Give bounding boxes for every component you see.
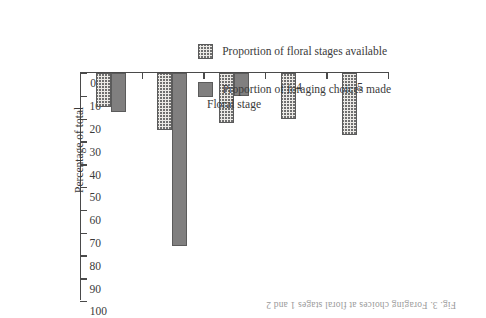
chart-legend: Proportion of foraging choices madePropo… (198, 26, 468, 100)
bar (157, 73, 172, 130)
y-axis-title: Percentage of total (73, 107, 85, 193)
y-axis-tick-label: 60 (90, 216, 102, 228)
legend-item: Proportion of foraging choices made (198, 78, 468, 100)
y-axis-tick (80, 301, 87, 302)
y-axis-tick (80, 233, 87, 234)
y-axis-tick-label: 50 (90, 193, 102, 205)
y-axis-tick (80, 210, 87, 211)
y-axis-tick (80, 96, 87, 97)
y-axis-tick-label: 40 (90, 170, 102, 182)
bar (172, 73, 187, 246)
legend-item: Proportion of floral stages available (198, 40, 468, 62)
bar (96, 73, 111, 107)
x-axis-tick (142, 72, 143, 79)
legend-item-label: Proportion of foraging choices made (222, 81, 391, 98)
y-axis-tick-label: 80 (90, 261, 102, 273)
y-axis-tick-label: 20 (90, 124, 102, 136)
legend-swatch-foraging-choices (198, 82, 213, 97)
y-axis-tick-label: 100 (90, 307, 107, 318)
y-axis-tick (80, 255, 87, 256)
y-axis-tick (80, 278, 87, 279)
y-axis-tick-label: 90 (90, 284, 102, 296)
bar (111, 73, 126, 112)
legend-item-label: Proportion of floral stages available (222, 43, 387, 60)
y-axis-tick-label: 30 (90, 147, 102, 159)
y-axis-tick-label: 70 (90, 238, 102, 250)
legend-swatch-floral-stages (198, 44, 213, 59)
x-axis-tick (80, 72, 81, 79)
